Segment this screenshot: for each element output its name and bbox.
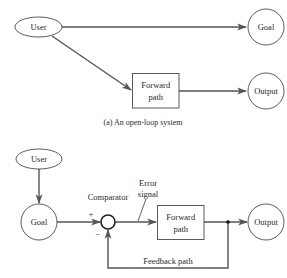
edge-user-to-forward-path	[52, 36, 131, 90]
diagram-canvas: User Goal Forward path Output (a) An ope…	[0, 0, 287, 278]
open-loop-diagram: User Goal Forward path Output (a) An ope…	[15, 9, 284, 127]
goal-label: Goal	[258, 22, 275, 32]
junction-dot	[226, 220, 230, 224]
error-signal-label-line2: signal	[138, 189, 159, 199]
forward-path-block: Forward path	[133, 74, 180, 109]
output-label-b: Output	[254, 217, 278, 227]
output-label: Output	[254, 86, 278, 96]
user-node-b: User	[16, 149, 62, 169]
plus-sign: +	[89, 209, 94, 219]
closed-loop-diagram: User Goal Comparator + − Error signal Fo…	[16, 149, 284, 268]
goal-node: Goal	[248, 9, 284, 45]
error-signal-label-line1: Error	[139, 178, 157, 188]
forward-path-label-line1: Forward	[141, 80, 171, 90]
error-signal-leader	[138, 199, 146, 221]
forward-path-label-line2: path	[148, 92, 163, 102]
goal-node-b: Goal	[21, 204, 57, 240]
output-node: Output	[248, 73, 284, 109]
goal-label-b: Goal	[31, 217, 48, 227]
forward-path-label-line1-b: Forward	[166, 212, 196, 222]
forward-path-label-line2-b: path	[173, 224, 188, 234]
caption-open-loop: (a) An open-loop system	[104, 118, 184, 127]
forward-path-block-b: Forward path	[158, 206, 205, 240]
comparator-label: Comparator	[88, 192, 129, 202]
error-signal-annotation: Error signal	[138, 178, 159, 199]
output-node-b: Output	[248, 204, 284, 240]
user-node: User	[15, 17, 62, 37]
minus-sign: −	[96, 229, 101, 239]
user-label-b: User	[31, 154, 47, 164]
feedback-path-label: Feedback path	[143, 256, 193, 266]
user-label: User	[30, 22, 46, 32]
